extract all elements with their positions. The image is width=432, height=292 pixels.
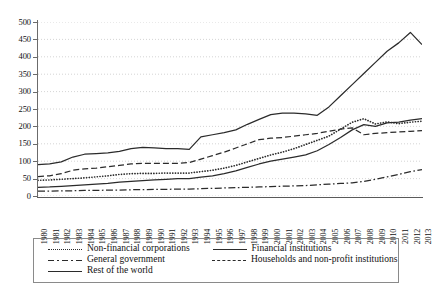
y-axis-tick-label: 400 <box>5 52 31 61</box>
legend-swatch-solid-icon <box>48 266 82 276</box>
legend-item-non-financial-corporations[interactable]: Non-financial corporations <box>40 243 213 254</box>
y-axis-tick-label: 250 <box>5 105 31 114</box>
y-axis-tick-label: 100 <box>5 157 31 166</box>
y-axis-tick-mark <box>33 39 37 40</box>
y-axis-tick-mark <box>33 196 37 197</box>
y-axis-tick-mark <box>33 109 37 110</box>
legend-item-financial-institutions[interactable]: Financial institutions <box>213 243 392 254</box>
chart-legend: Non-financial corporations Financial ins… <box>33 238 399 283</box>
legend-swatch-dash-dot-icon <box>48 255 82 265</box>
legend-row: Rest of the world <box>40 265 392 276</box>
y-axis-tick-label: 300 <box>5 87 31 96</box>
y-axis-tick-mark <box>33 179 37 180</box>
x-axis-line <box>37 197 423 198</box>
y-axis-tick-label: 450 <box>5 35 31 44</box>
legend-item-households-and-non-profit-institutions[interactable]: Households and non-profit institutions <box>212 254 392 265</box>
y-axis-tick-mark <box>33 92 37 93</box>
y-axis-tick-label: 50 <box>5 174 31 183</box>
series-line-rest-of-the-world <box>38 32 422 164</box>
legend-label: Rest of the world <box>87 265 153 276</box>
y-axis-tick-mark <box>33 126 37 127</box>
gridlines <box>38 22 422 196</box>
y-axis-tick-mark <box>33 57 37 58</box>
legend-swatch-dashed-icon <box>212 255 246 265</box>
legend-item-rest-of-the-world[interactable]: Rest of the world <box>40 265 213 276</box>
x-axis-tick-label: 2013 <box>425 229 432 244</box>
legend-row: General government Households and non-pr… <box>40 254 392 265</box>
chart-figure: 500450400350300250200150100500 198019811… <box>0 0 432 292</box>
y-axis-tick-mark <box>33 161 37 162</box>
y-axis-tick-mark <box>33 22 37 23</box>
y-axis-tick-label: 200 <box>5 122 31 131</box>
y-axis-tick-mark <box>33 74 37 75</box>
legend-label: Financial institutions <box>252 243 332 254</box>
y-axis-tick-label: 500 <box>5 18 31 27</box>
x-axis-labels: 1980198119821983198419851986198719881989… <box>0 199 432 233</box>
legend-item-general-government[interactable]: General government <box>40 254 212 265</box>
x-axis-tick-label: 2011 <box>402 229 410 244</box>
line-chart-canvas <box>38 22 422 196</box>
legend-label: Non-financial corporations <box>87 243 190 254</box>
legend-swatch-solid-icon <box>213 244 247 254</box>
series-line-non-financial-corporations <box>38 119 422 181</box>
legend-label: Households and non-profit institutions <box>251 254 397 265</box>
y-axis-tick-mark <box>33 144 37 145</box>
legend-label: General government <box>87 254 165 265</box>
plot-area-wrapper: 500450400350300250200150100500 198019811… <box>0 0 432 232</box>
y-axis-tick-label: 350 <box>5 70 31 79</box>
series-layer <box>38 32 422 191</box>
x-axis-tick-label: 2012 <box>414 229 422 244</box>
series-line-households-and-non-profit-institutions <box>38 128 422 177</box>
legend-swatch-dotted-icon <box>48 244 82 254</box>
legend-row: Non-financial corporations Financial ins… <box>40 243 392 254</box>
y-axis-tick-label: 150 <box>5 139 31 148</box>
